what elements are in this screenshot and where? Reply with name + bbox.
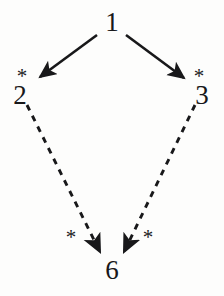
edge-3-to-6 [124, 105, 195, 252]
graph-diagram: 1 2 3 6 * * * * [0, 0, 224, 296]
edge-label-asterisk-1-to-2: * [17, 66, 28, 87]
edge-1-to-3 [126, 35, 184, 78]
edge-layer [0, 0, 224, 296]
edge-label-asterisk-2-to-6: * [66, 227, 77, 248]
edge-2-to-6 [27, 105, 100, 252]
node-label-6: 6 [105, 257, 119, 284]
node-label-1: 1 [105, 9, 119, 36]
edge-label-asterisk-1-to-3: * [194, 66, 205, 87]
edge-label-asterisk-3-to-6: * [143, 227, 154, 248]
edge-1-to-2 [40, 35, 97, 77]
